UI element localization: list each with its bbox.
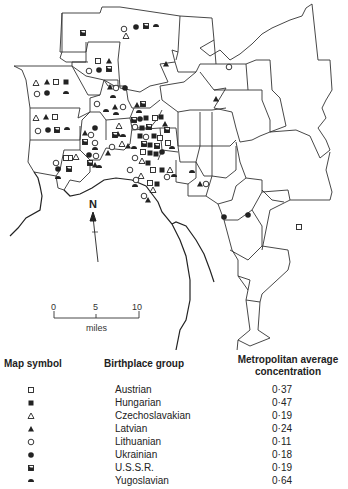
legend-group: Latvian [115,423,147,434]
legend-row: U.S.S.R. 0·19 [0,462,348,475]
legend-header-concentration: Metropolitan average concentration [232,354,344,378]
legend-value: 0·18 [272,449,292,460]
filled-circle-icon [26,450,36,460]
coastline [10,172,214,350]
legend-header-symbol: Map symbol [4,358,62,369]
half-filled-square-icon [26,463,36,473]
filled-triangle-icon [26,424,36,434]
legend-group: U.S.S.R. [115,462,154,473]
open-triangle-icon [26,411,36,421]
legend-row: Austrian 0·37 [0,384,348,397]
legend-row: Ukrainian 0·18 [0,449,348,462]
north-label: N [89,198,97,210]
scale-tick-0: 0 [51,302,56,312]
legend-group: Yugoslavian [115,475,169,486]
legend-value: 0·11 [272,436,291,447]
legend: Map symbol Birthplace group Metropolitan… [0,352,348,489]
legend-value: 0·47 [272,397,292,408]
legend-row: Latvian 0·24 [0,423,348,436]
legend-value: 0·37 [272,384,292,395]
legend-value: 0·24 [272,423,292,434]
scale-bar [54,311,139,318]
legend-row: Yugoslavian 0·64 [0,475,348,488]
filled-square-icon [26,398,36,408]
legend-group: Austrian [115,384,152,395]
legend-value: 0·64 [272,475,292,486]
open-square-icon [26,385,36,395]
map-symbols [33,24,302,230]
open-circle-icon [26,437,36,447]
north-arrow [90,212,98,262]
legend-row: Hungarian 0·47 [0,397,348,410]
legend-row: Czechoslavakian 0·19 [0,410,348,423]
legend-value: 0·19 [272,410,292,421]
scale-tick-10: 10 [132,302,142,312]
legend-value: 0·19 [272,462,292,473]
legend-row: Lithuanian 0·11 [0,436,348,449]
scale-tick-5: 5 [93,302,98,312]
legend-group: Hungarian [115,397,161,408]
legend-group: Lithuanian [115,436,161,447]
legend-header-group: Birthplace group [104,358,184,369]
legend-group: Ukrainian [115,449,157,460]
scale-unit: miles [86,323,108,333]
metropolitan-map: N 0 5 10 miles [0,0,348,350]
half-disc-icon [26,476,36,486]
legend-group: Czechoslavakian [115,410,191,421]
